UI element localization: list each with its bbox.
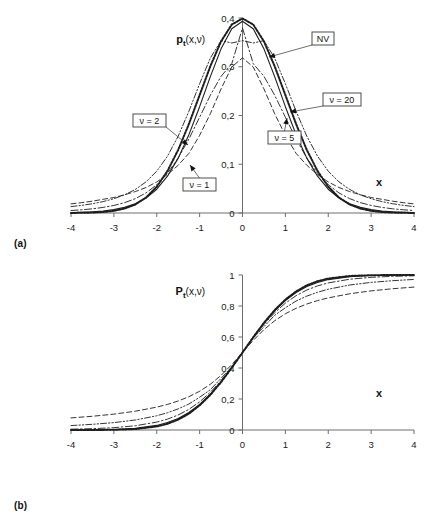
- chart-panel-b: -4-3-2-10123400,20,40,60,81Pt(x,ν)xNVν =…: [0, 255, 435, 522]
- callout-arrowhead: [190, 165, 196, 171]
- y-tick-label: 0,2: [221, 110, 234, 121]
- callout-label: ν = 5: [275, 133, 295, 143]
- y-tick-label: 0,2: [221, 394, 234, 405]
- y-tick-label: 0,6: [221, 332, 234, 343]
- x-tick-label: -3: [110, 439, 118, 450]
- axes-group: -4-3-2-10123400,20,40,60,81: [67, 270, 417, 451]
- x-tick-label: 2: [326, 439, 331, 450]
- panel-a-tag: (a): [14, 238, 27, 249]
- chart-panel-a: -4-3-2-10123400,10,20,30,4pt(x,ν)xNVν = …: [0, 0, 435, 261]
- y-tick-label: 0,4: [221, 13, 234, 24]
- y-tick-label: 0: [229, 425, 234, 436]
- figure-student-t-distributions: -4-3-2-10123400,10,20,30,4pt(x,ν)xNVν = …: [0, 0, 435, 522]
- annotations-group: NVν = 20ν = 5ν = 2ν = 1: [133, 32, 361, 191]
- chart-a-canvas: -4-3-2-10123400,10,20,30,4pt(x,ν)xNVν = …: [0, 0, 435, 261]
- x-tick-label: 4: [411, 222, 416, 233]
- panel-b-tag: (b): [14, 500, 27, 511]
- x-tick-label: 1: [283, 439, 288, 450]
- x-tick-label: 1: [283, 222, 288, 233]
- axes-group: -4-3-2-10123400,10,20,30,4: [67, 13, 417, 234]
- x-tick-label: 0: [240, 439, 245, 450]
- x-tick-label: 3: [368, 222, 373, 233]
- callout-label: ν = 1: [190, 180, 210, 190]
- x-axis-title: x: [376, 387, 383, 399]
- x-tick-label: 2: [326, 222, 331, 233]
- x-tick-label: 0: [240, 222, 245, 233]
- x-axis-title: x: [376, 176, 383, 188]
- y-axis-title: pt(x,ν): [176, 33, 205, 48]
- y-tick-label: 0,3: [221, 61, 234, 72]
- y-tick-label: 0,1: [221, 159, 234, 170]
- y-tick-label: 0,8: [221, 301, 234, 312]
- y-tick-label: 1: [229, 270, 234, 281]
- x-tick-label: -2: [153, 222, 161, 233]
- y-tick-label: 0: [229, 208, 234, 219]
- x-tick-label: -2: [153, 439, 161, 450]
- chart-b-canvas: -4-3-2-10123400,20,40,60,81Pt(x,ν)xNVν =…: [0, 255, 435, 522]
- callout-label: NV: [317, 34, 330, 44]
- x-tick-label: -1: [195, 439, 203, 450]
- y-axis-title: Pt(x,ν): [176, 285, 205, 300]
- callout-leader: [269, 45, 312, 57]
- x-tick-label: -4: [67, 439, 75, 450]
- x-tick-label: -4: [67, 222, 75, 233]
- x-tick-label: -1: [195, 222, 203, 233]
- callout-label: ν = 20: [330, 95, 355, 105]
- x-tick-label: -3: [110, 222, 118, 233]
- callout-label: ν = 2: [140, 116, 160, 126]
- x-tick-label: 4: [411, 439, 416, 450]
- x-tick-label: 3: [368, 439, 373, 450]
